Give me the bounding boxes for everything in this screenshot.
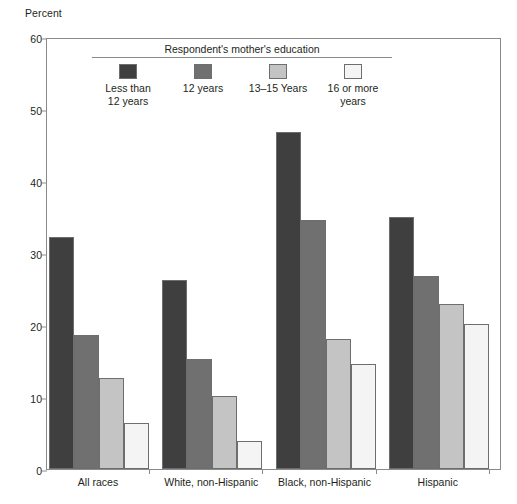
legend-swatch-icon	[194, 64, 212, 79]
y-tick-mark	[42, 39, 47, 40]
y-tick-mark	[42, 183, 47, 184]
legend-item[interactable]: Less than 12 years	[92, 64, 164, 107]
bar[interactable]	[464, 324, 489, 469]
legend-label: 16 or more years	[317, 82, 389, 107]
legend-item[interactable]: 13–15 Years	[242, 64, 314, 95]
bar[interactable]	[212, 396, 237, 469]
x-axis-category-label: All races	[78, 476, 118, 488]
legend: Respondent's mother's education Less tha…	[92, 43, 392, 110]
legend-items: Less than 12 years12 years13–15 Years16 …	[92, 64, 392, 110]
bar[interactable]	[351, 364, 376, 469]
bar[interactable]	[74, 335, 99, 469]
legend-swatch-icon	[119, 64, 137, 79]
bar[interactable]	[326, 339, 351, 469]
legend-label: 12 years	[167, 82, 239, 95]
bar[interactable]	[276, 132, 301, 469]
bar[interactable]	[439, 304, 464, 469]
x-tick-mark	[376, 469, 377, 474]
y-tick-mark	[42, 327, 47, 328]
legend-title: Respondent's mother's education	[92, 43, 392, 58]
bar-group	[389, 39, 489, 469]
chart-container: Percent 0102030405060 All racesWhite, no…	[0, 0, 517, 504]
legend-label: 13–15 Years	[242, 82, 314, 95]
y-axis-title: Percent	[25, 7, 62, 19]
bar[interactable]	[187, 359, 212, 469]
bar[interactable]	[99, 378, 124, 469]
x-axis-category-label: White, non-Hispanic	[164, 476, 258, 488]
bar[interactable]	[124, 423, 149, 469]
y-tick-mark	[42, 399, 47, 400]
y-tick-mark	[42, 255, 47, 256]
bar[interactable]	[237, 441, 262, 469]
legend-item[interactable]: 16 or more years	[317, 64, 389, 107]
legend-label: Less than 12 years	[92, 82, 164, 107]
x-axis-category-label: Hispanic	[418, 476, 458, 488]
y-tick-mark	[42, 111, 47, 112]
x-axis-category-label: Black, non-Hispanic	[278, 476, 371, 488]
y-tick-mark	[42, 471, 47, 472]
x-tick-mark	[149, 469, 150, 474]
x-tick-mark	[262, 469, 263, 474]
x-tick-mark	[489, 469, 490, 474]
bar[interactable]	[301, 220, 326, 469]
legend-item[interactable]: 12 years	[167, 64, 239, 95]
legend-swatch-icon	[269, 64, 287, 79]
bar[interactable]	[49, 237, 74, 469]
legend-swatch-icon	[344, 64, 362, 79]
bar[interactable]	[389, 217, 414, 469]
bar[interactable]	[162, 280, 187, 469]
bar[interactable]	[414, 276, 439, 469]
